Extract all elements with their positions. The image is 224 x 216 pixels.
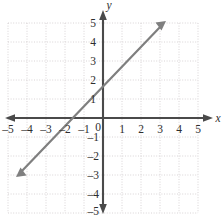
x-tick-label: –3: [39, 123, 52, 135]
x-tick-label: 1: [119, 123, 125, 135]
graph-canvas: –5 –4 –3 –2 –1 0 1 2 3 4 5 5 4 3 2 1 –1 …: [0, 0, 224, 216]
x-axis-tick-labels: –5 –4 –3 –2 –1 0 1 2 3 4 5: [1, 121, 201, 135]
y-tick-label: 2: [90, 74, 96, 86]
y-axis-label: y: [105, 0, 112, 12]
y-tick-label: 5: [90, 17, 96, 29]
x-axis-label: x: [214, 112, 221, 124]
y-tick-label: 3: [90, 55, 96, 67]
y-tick-label: –5: [87, 205, 100, 216]
x-axis-arrow-right: [203, 114, 213, 122]
x-tick-label: 2: [138, 123, 144, 135]
y-tick-label: –3: [87, 169, 100, 181]
x-tick-label: 3: [157, 123, 163, 135]
y-axis-arrow-down: [99, 204, 107, 214]
x-tick-label: –4: [20, 123, 33, 135]
x-tick-label: 5: [195, 123, 201, 135]
x-tick-label: –5: [1, 123, 14, 135]
y-tick-label: –1: [87, 131, 100, 143]
x-tick-label: 4: [176, 123, 182, 135]
y-axis-tick-labels: 5 4 3 2 1 –1 –2 –3 –4 –5: [87, 17, 100, 216]
y-tick-label: –2: [87, 150, 100, 162]
y-tick-label: –4: [87, 188, 100, 200]
axes: [5, 10, 213, 214]
coordinate-plane-figure: –5 –4 –3 –2 –1 0 1 2 3 4 5 5 4 3 2 1 –1 …: [0, 0, 224, 216]
y-tick-label: 1: [90, 93, 96, 105]
x-axis-arrow-left: [5, 114, 15, 122]
y-axis-arrow-up: [99, 10, 107, 20]
x-tick-label: –2: [58, 123, 71, 135]
y-tick-label: 4: [90, 36, 96, 48]
